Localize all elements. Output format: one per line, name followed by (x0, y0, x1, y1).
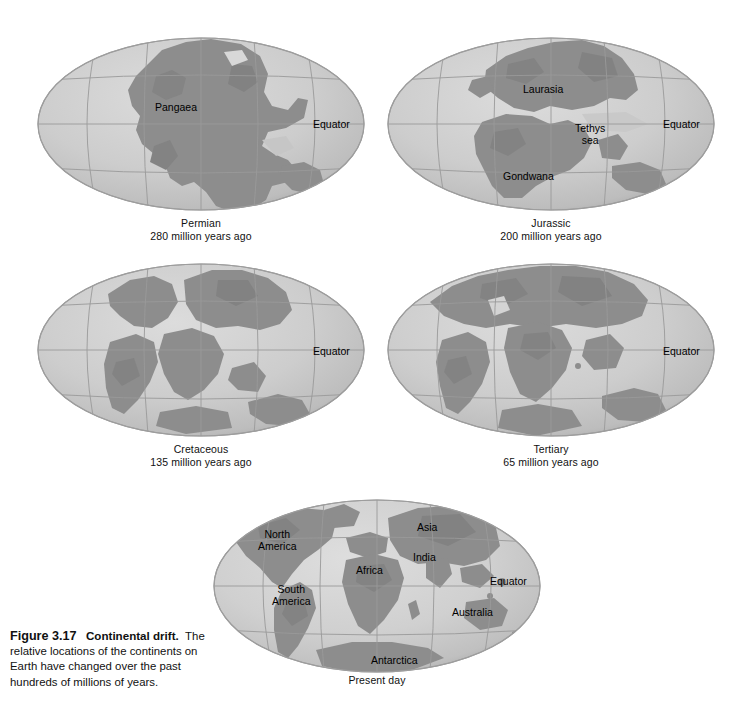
epoch-name: Permian (36, 217, 366, 230)
present-day-globe-map (212, 498, 542, 680)
figure-title: Continental drift. (86, 629, 179, 642)
epoch-name: Tertiary (386, 443, 716, 456)
jurassic-globe-map (386, 36, 716, 218)
figure-number: Figure 3.17 (10, 629, 77, 643)
panel-caption-cretaceous: Cretaceous 135 million years ago (36, 443, 366, 469)
island-dot (575, 363, 581, 369)
continental-drift-figure: Pangaea Equator Laurasia Tethys sea Gond… (0, 0, 750, 720)
epoch-age: 280 million years ago (36, 230, 366, 243)
epoch-age: 135 million years ago (36, 456, 366, 469)
globe-panel-cretaceous (36, 262, 366, 444)
figure-caption: Figure 3.17 Continental drift. The relat… (10, 628, 218, 690)
island-dot-2 (487, 593, 493, 599)
island-dot-1 (498, 578, 506, 586)
globe-panel-present-day (212, 498, 542, 680)
epoch-name: Cretaceous (36, 443, 366, 456)
tertiary-globe-map (386, 262, 716, 444)
panel-caption-tertiary: Tertiary 65 million years ago (386, 443, 716, 469)
panel-caption-permian: Permian 280 million years ago (36, 217, 366, 243)
epoch-age: 200 million years ago (386, 230, 716, 243)
globe-panel-permian (36, 36, 366, 218)
epoch-name: Jurassic (386, 217, 716, 230)
panel-caption-present-day: Present day (212, 674, 542, 687)
epoch-name: Present day (212, 674, 542, 687)
permian-globe-map (36, 36, 366, 218)
epoch-age: 65 million years ago (386, 456, 716, 469)
globe-panel-tertiary (386, 262, 716, 444)
panel-caption-jurassic: Jurassic 200 million years ago (386, 217, 716, 243)
cretaceous-globe-map (36, 262, 366, 444)
globe-panel-jurassic (386, 36, 716, 218)
